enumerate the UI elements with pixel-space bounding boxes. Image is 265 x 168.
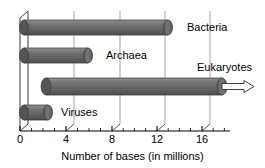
bar-chart: 0 4 8 12 16 Bacteria Archaea Eukaryotes … — [0, 0, 265, 168]
x-tick-label-8: 8 — [102, 134, 122, 145]
x-axis-title: Number of bases (in millions) — [0, 150, 265, 162]
origin-depth — [20, 124, 28, 131]
x-axis — [20, 126, 230, 131]
x-tick-label-0: 0 — [10, 134, 30, 145]
x-tick-label-12: 12 — [147, 134, 167, 145]
y-axis-depth-top — [20, 11, 28, 18]
x-tick-label-16: 16 — [192, 134, 212, 145]
bar-label-viruses: Viruses — [61, 106, 97, 118]
bar-label-eukaryotes: Eukaryotes — [197, 61, 252, 73]
bar-label-archaea: Archaea — [106, 49, 147, 61]
bar-label-bacteria: Bacteria — [187, 21, 227, 33]
value-continues-arrow — [222, 81, 254, 93]
bar-viruses — [20, 105, 53, 120]
bar-eukaryotes — [41, 78, 254, 95]
bar-archaea — [20, 48, 93, 63]
bar-bacteria — [20, 20, 173, 35]
x-tick-label-4: 4 — [56, 134, 76, 145]
x-major-ticks — [20, 126, 202, 131]
